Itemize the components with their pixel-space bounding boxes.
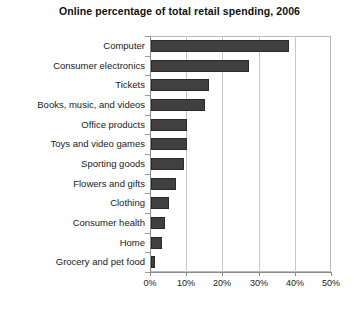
- category-label: Clothing: [4, 197, 145, 208]
- category-labels: ComputerConsumer electronicsTicketsBooks…: [0, 0, 359, 319]
- category-label: Books, music, and videos: [4, 99, 145, 110]
- category-label: Flowers and gifts: [4, 178, 145, 189]
- category-label: Consumer electronics: [4, 60, 145, 71]
- bar-chart: Online percentage of total retail spendi…: [0, 0, 359, 319]
- category-label: Sporting goods: [4, 158, 145, 169]
- category-label: Home: [4, 237, 145, 248]
- category-label: Office products: [4, 119, 145, 130]
- category-label: Computer: [4, 40, 145, 51]
- category-label: Toys and video games: [4, 138, 145, 149]
- category-label: Consumer health: [4, 217, 145, 228]
- category-label: Grocery and pet food: [4, 256, 145, 267]
- category-label: Tickets: [4, 79, 145, 90]
